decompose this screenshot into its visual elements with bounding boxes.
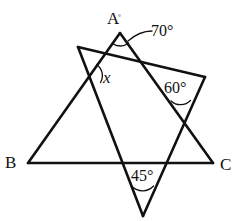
segment-ac — [120, 33, 213, 163]
angle-arc-45 — [132, 186, 154, 191]
angle-label-70: 70° — [151, 23, 173, 39]
figure-canvas — [0, 0, 249, 221]
vertex-label-a: A — [107, 10, 119, 27]
angle-label-45: 45° — [131, 168, 153, 184]
geometry-figure: A B C 70° x 60° 45° — [0, 0, 249, 221]
scan-speck — [118, 14, 121, 17]
vertex-label-b: B — [5, 154, 16, 171]
angle-label-x: x — [103, 69, 111, 86]
segment-de — [78, 47, 205, 77]
angle-label-60: 60° — [164, 80, 186, 96]
angle-arc-60 — [171, 101, 191, 105]
segment-ef — [143, 77, 205, 216]
vertex-label-c: C — [220, 156, 231, 173]
angle-leader-a — [128, 31, 152, 41]
